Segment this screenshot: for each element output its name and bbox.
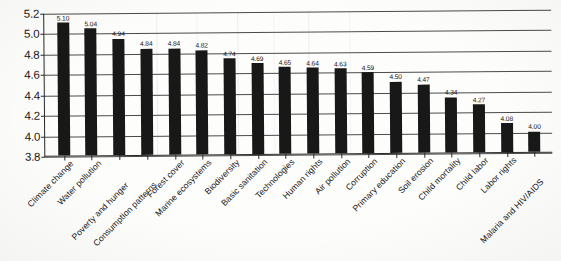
bar[interactable]	[168, 48, 181, 154]
bar-value-label: 4.82	[195, 42, 207, 49]
plot-area: 5.25.04.84.64.44.24.03.8 5.105.044.944.8…	[43, 10, 552, 157]
bar[interactable]	[390, 81, 403, 153]
bar[interactable]	[85, 29, 98, 156]
bar[interactable]	[334, 69, 347, 154]
bar-slot: 4.47	[409, 11, 438, 153]
bar[interactable]	[445, 97, 457, 152]
bar-value-label: 4.00	[528, 123, 540, 130]
y-tick-label: 5.0	[24, 28, 39, 40]
bar[interactable]	[223, 58, 236, 154]
bar-slot: 4.94	[105, 13, 134, 155]
bar-value-label: 4.64	[306, 59, 318, 66]
bar-value-label: 4.84	[140, 40, 152, 47]
bar-value-label: 4.74	[223, 50, 235, 57]
bar-value-label: 4.69	[251, 55, 263, 62]
bar-value-label: 4.27	[473, 96, 485, 103]
y-tick-mark	[41, 157, 45, 158]
bar-value-label: 4.59	[362, 64, 374, 71]
chart-page: 5.25.04.84.64.44.24.03.8 5.105.044.944.8…	[0, 0, 561, 261]
y-tick-label: 4.4	[24, 89, 39, 101]
bar-value-label: 4.84	[168, 40, 180, 47]
y-tick-label: 4.8	[24, 49, 39, 61]
y-tick-label: 3.8	[25, 151, 40, 163]
bar[interactable]	[362, 72, 375, 153]
bar-value-label: 4.08	[501, 115, 513, 122]
bar[interactable]	[501, 123, 513, 152]
bar[interactable]	[113, 39, 126, 156]
bar-slot: 4.82	[188, 12, 217, 154]
bar[interactable]	[529, 131, 541, 152]
bar-slot: 4.08	[492, 10, 521, 152]
bar-value-label: 4.47	[417, 76, 429, 83]
bar-slot: 4.84	[132, 13, 161, 155]
bar-value-label: 4.65	[279, 58, 291, 65]
bar-slot: 4.00	[520, 10, 549, 152]
y-tick-label: 4.6	[24, 69, 39, 81]
bar-slot: 4.65	[271, 12, 300, 154]
x-axis-labels: Climate changeWater pollutionPoverty and…	[44, 155, 553, 259]
bar[interactable]	[279, 67, 292, 154]
bar-slot: 4.63	[326, 11, 355, 153]
bar[interactable]	[473, 104, 485, 152]
bar-slot: 5.10	[49, 13, 78, 155]
bar[interactable]	[307, 68, 320, 154]
bars-group: 5.105.044.944.844.844.824.744.694.654.64…	[44, 10, 552, 156]
bar-value-label: 4.63	[334, 60, 346, 67]
bar-slot: 4.74	[215, 12, 244, 154]
bar[interactable]	[196, 50, 209, 154]
y-tick-label: 4.0	[25, 130, 40, 142]
bar-chart-figure: 5.25.04.84.64.44.24.03.8 5.105.044.944.8…	[0, 0, 561, 261]
bar-value-label: 5.10	[57, 14, 69, 21]
bar-slot: 4.84	[160, 13, 189, 155]
bar-slot: 4.64	[298, 11, 327, 153]
bar-slot: 4.50	[381, 11, 410, 153]
bar-value-label: 4.94	[112, 30, 124, 37]
bar[interactable]	[251, 63, 264, 154]
bar[interactable]	[417, 84, 430, 153]
bar-slot: 4.59	[354, 11, 383, 153]
bar-slot: 5.04	[77, 13, 106, 155]
bar-value-label: 4.50	[389, 73, 401, 80]
bar-value-label: 4.34	[445, 89, 457, 96]
bar[interactable]	[140, 49, 153, 155]
y-tick-label: 4.2	[25, 110, 40, 122]
bar[interactable]	[57, 23, 70, 156]
bar-slot: 4.27	[464, 10, 493, 152]
bar-value-label: 5.04	[84, 20, 96, 27]
bar-slot: 4.34	[437, 10, 466, 152]
y-tick-label: 5.2	[24, 8, 39, 20]
bar-slot: 4.69	[243, 12, 272, 154]
